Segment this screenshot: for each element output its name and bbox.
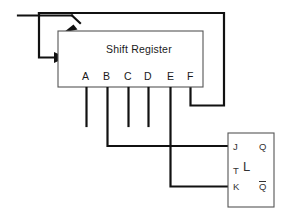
- ff-terminal-t: T: [233, 166, 239, 176]
- pin-label-c: C: [124, 71, 132, 82]
- ff-terminal-k: K: [233, 182, 239, 192]
- pin-label-f: F: [187, 71, 193, 82]
- pin-label-d: D: [144, 71, 152, 82]
- shift-register-title: Shift Register: [106, 44, 172, 55]
- wire-e-to-k: [171, 88, 229, 187]
- shift-register-diagram: Shift Register A B C D E F J T K L Q Q: [0, 0, 281, 216]
- ff-terminal-j: J: [233, 142, 238, 152]
- ff-terminal-q-not: Q: [259, 182, 266, 192]
- ff-body-label: L: [243, 160, 250, 173]
- ff-terminal-q-not-text: Q: [259, 182, 266, 192]
- pin-label-b: B: [103, 71, 110, 82]
- ff-terminal-q: Q: [259, 142, 266, 152]
- pin-label-a: A: [82, 71, 89, 82]
- pin-label-e: E: [167, 71, 174, 82]
- wire-b-to-j: [108, 88, 229, 146]
- arrow-serial-data-into-register: [64, 16, 81, 33]
